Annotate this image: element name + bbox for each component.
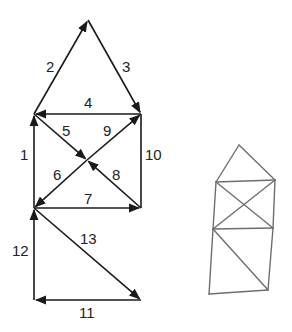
edge-label-3: 3 <box>122 58 130 75</box>
sketch-stroke <box>239 145 275 180</box>
edge-label-11: 11 <box>79 304 95 321</box>
edge-5-arrow <box>34 114 85 159</box>
hand-drawn-sketch <box>209 145 275 294</box>
diagram-canvas: 12345678910111213 <box>0 0 292 332</box>
sketch-stroke <box>216 180 275 182</box>
edge-label-7: 7 <box>84 190 92 207</box>
sketch-stroke <box>209 290 268 294</box>
edge-label-5: 5 <box>62 122 70 139</box>
edge-label-2: 2 <box>46 58 54 75</box>
edge-label-12: 12 <box>12 242 29 259</box>
sketch-stroke <box>216 145 239 182</box>
edge-label-8: 8 <box>112 166 120 183</box>
edge-label-4: 4 <box>84 94 92 111</box>
sketch-stroke <box>268 228 273 290</box>
edge-label-1: 1 <box>20 146 28 163</box>
edge-label-10: 10 <box>145 146 162 163</box>
edge-label-9: 9 <box>103 122 111 139</box>
sketch-stroke <box>213 229 268 290</box>
edge-2-arrow <box>34 22 87 114</box>
edge-3-arrow <box>88 20 140 112</box>
sketch-stroke <box>273 180 275 228</box>
edge-label-6: 6 <box>53 166 61 183</box>
sketch-stroke <box>209 229 213 294</box>
sketch-stroke <box>213 228 273 229</box>
edge-13-arrow <box>34 208 139 299</box>
edge-label-13: 13 <box>80 230 97 247</box>
edge-9-arrow <box>87 115 139 160</box>
sketch-stroke <box>213 182 216 229</box>
